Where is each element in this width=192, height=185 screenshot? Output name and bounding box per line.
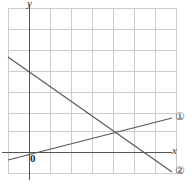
graph-figure: y x 0 ① ② (0, 0, 192, 185)
grid-vertical-lines (9, 8, 177, 173)
y-axis-label: y (27, 0, 32, 9)
coordinate-plane (0, 0, 192, 185)
x-axis-label: x (172, 145, 177, 156)
line-2-callout: ② (175, 165, 185, 176)
origin-label: 0 (30, 153, 36, 164)
line-1-callout: ① (175, 111, 185, 122)
